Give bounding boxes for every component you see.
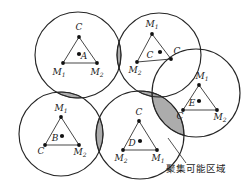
cluster-head-dot bbox=[138, 139, 142, 143]
node-label: M1 bbox=[194, 71, 208, 82]
cluster-head-label: B bbox=[51, 133, 59, 143]
coverage-circle-e bbox=[152, 49, 240, 137]
node-label: C bbox=[76, 22, 83, 32]
cluster-head-dot bbox=[60, 134, 64, 138]
annotation-layer: 聚集可能区域 bbox=[166, 138, 226, 174]
cluster-head-label: D bbox=[127, 138, 135, 148]
node-dot bbox=[77, 35, 81, 39]
group-a: CM1M2A bbox=[51, 22, 103, 78]
node-dot bbox=[197, 83, 201, 87]
node-label: C bbox=[136, 107, 143, 117]
node-dot bbox=[95, 61, 99, 65]
clustering-region-diagram: CM1M2AM1M2CCM1CM2EM1CM2BCM2M1D 聚集可能区域 bbox=[0, 0, 252, 186]
coverage-circle-c bbox=[117, 13, 201, 97]
node-label: M2 bbox=[113, 153, 127, 164]
node-label-subscript: 2 bbox=[137, 69, 142, 76]
node-dot bbox=[155, 148, 159, 152]
cluster-head-label: A bbox=[80, 51, 88, 61]
node-label: M1 bbox=[51, 67, 65, 78]
node-dot bbox=[137, 119, 141, 123]
node-dot bbox=[135, 60, 139, 64]
node-dot bbox=[150, 32, 154, 36]
node-label-subscript: 1 bbox=[62, 71, 66, 78]
node-label: M1 bbox=[144, 19, 158, 30]
node-label: M2 bbox=[127, 65, 141, 76]
node-label: M2 bbox=[212, 112, 226, 123]
node-label: M1 bbox=[150, 153, 164, 164]
group-d: CM2M1D bbox=[113, 107, 164, 164]
node-label: C bbox=[177, 111, 184, 121]
cluster-head-label: E bbox=[188, 98, 196, 108]
node-label-subscript: 2 bbox=[222, 116, 227, 123]
node-label: M1 bbox=[53, 103, 67, 114]
node-dot bbox=[59, 115, 63, 119]
cluster-head-dot bbox=[197, 99, 201, 103]
node-label-subscript: 1 bbox=[205, 75, 209, 82]
node-label-subscript: 2 bbox=[82, 151, 87, 158]
node-label-subscript: 1 bbox=[64, 107, 68, 114]
node-dot bbox=[121, 148, 125, 152]
node-label-subscript: 2 bbox=[99, 71, 104, 78]
triangle-outline bbox=[45, 117, 79, 145]
node-label-subscript: 2 bbox=[123, 157, 128, 164]
node-dot bbox=[169, 57, 173, 61]
cluster-head-label: C bbox=[147, 50, 154, 60]
node-label: M2 bbox=[72, 147, 86, 158]
node-label: C bbox=[174, 46, 181, 56]
node-label-subscript: 1 bbox=[155, 23, 159, 30]
cluster-head-dot bbox=[158, 50, 162, 54]
group-c: M1M2CC bbox=[127, 19, 180, 76]
node-label: C bbox=[38, 146, 45, 156]
annotation-label: 聚集可能区域 bbox=[166, 163, 226, 174]
node-label-subscript: 1 bbox=[161, 157, 165, 164]
triangle-outline bbox=[137, 34, 171, 62]
node-dot bbox=[61, 61, 65, 65]
diagram-canvas: CM1M2AM1M2CCM1CM2EM1CM2BCM2M1D 聚集可能区域 bbox=[0, 0, 252, 186]
group-e: M1CM2E bbox=[177, 71, 227, 123]
node-label: M2 bbox=[89, 67, 103, 78]
group-b: M1CM2B bbox=[38, 103, 87, 158]
